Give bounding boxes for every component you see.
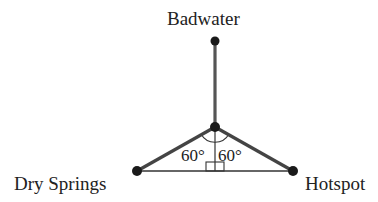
angle-left-label: 60° xyxy=(181,146,205,166)
angle-right-label: 60° xyxy=(218,146,242,166)
point-hotspot xyxy=(288,166,298,176)
point-badwater xyxy=(211,37,220,46)
label-badwater: Badwater xyxy=(167,8,240,30)
label-dry-springs: Dry Springs xyxy=(14,173,106,195)
triangle-diagram xyxy=(0,0,378,202)
point-center xyxy=(210,122,220,132)
point-dry-springs xyxy=(132,166,142,176)
label-hotspot: Hotspot xyxy=(305,173,365,195)
